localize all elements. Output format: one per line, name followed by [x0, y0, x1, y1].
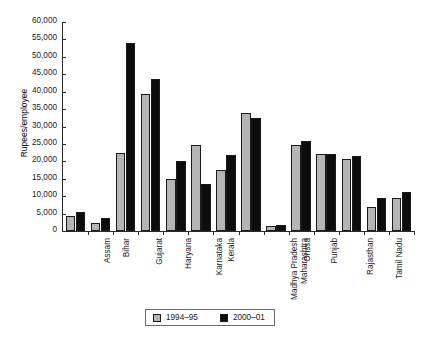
- x-axis-tick: [289, 231, 290, 235]
- y-tick-label: 25,000: [32, 138, 57, 147]
- x-axis-tick: [163, 231, 164, 235]
- x-axis-label: Karnataka: [216, 238, 225, 275]
- bar-group: [364, 22, 389, 231]
- bar: [226, 155, 236, 231]
- x-axis-tick: [113, 231, 114, 235]
- x-axis-tick: [239, 231, 240, 235]
- y-tick-label: 55,000: [32, 33, 57, 42]
- bar: [126, 43, 136, 231]
- x-axis-label: Madhya Pradesh: [290, 238, 299, 300]
- y-tick-label: 5,000: [37, 208, 58, 217]
- plot-area: 05,00010,00015,00020,00025,00030,00035,0…: [62, 22, 414, 232]
- y-tick-label: 40,000: [32, 86, 57, 95]
- bar: [141, 94, 151, 231]
- bar: [392, 198, 402, 231]
- y-tick-label: 35,000: [32, 103, 57, 112]
- bar: [367, 207, 377, 231]
- x-axis-label: Tamil Nadu: [395, 238, 404, 279]
- y-tick-label: 30,000: [32, 121, 57, 130]
- bar: [76, 212, 86, 231]
- bar: [101, 218, 111, 231]
- x-axis-tick: [264, 231, 265, 235]
- bar: [166, 179, 176, 231]
- y-tick-label: 20,000: [32, 155, 57, 164]
- gray-swatch-icon: [153, 314, 161, 322]
- x-axis-tick: [213, 231, 214, 235]
- bar-group: [88, 22, 113, 231]
- bar-group: [213, 22, 238, 231]
- bar-group: [389, 22, 414, 231]
- y-tick-label: 60,000: [32, 16, 57, 25]
- bar: [326, 154, 336, 231]
- bar: [176, 161, 186, 231]
- chart-legend: 1994–95 2000–01: [145, 309, 275, 326]
- x-axis-label: Haryana: [184, 238, 193, 269]
- y-axis-title: Rupees/employee: [19, 53, 29, 193]
- bar: [201, 184, 211, 231]
- y-tick-label: 45,000: [32, 68, 57, 77]
- bar: [116, 153, 126, 231]
- bar: [352, 156, 362, 231]
- bar: [291, 145, 301, 231]
- x-axis-label: Kerala: [227, 238, 236, 262]
- bar-group: [239, 22, 264, 231]
- x-axis-label: Rajasthan: [366, 238, 375, 275]
- legend-label: 2000–01: [233, 313, 265, 322]
- bar: [266, 226, 276, 231]
- bar: [91, 223, 101, 231]
- bar-group: [113, 22, 138, 231]
- x-axis-tick: [414, 231, 415, 235]
- bar: [301, 141, 311, 231]
- x-axis-tick: [88, 231, 89, 235]
- bar: [151, 79, 161, 231]
- bar-group: [264, 22, 289, 231]
- y-tick-mark: [63, 231, 66, 232]
- x-axis-tick: [314, 231, 315, 235]
- y-tick-label: 50,000: [32, 51, 57, 60]
- y-tick-label: 15,000: [32, 173, 57, 182]
- black-swatch-icon: [220, 314, 228, 322]
- x-axis-tick: [188, 231, 189, 235]
- x-axis-label: Punjab: [329, 238, 338, 264]
- bar: [342, 159, 352, 231]
- bar-group: [314, 22, 339, 231]
- bar-group: [289, 22, 314, 231]
- bar: [251, 118, 261, 231]
- x-axis-tick: [339, 231, 340, 235]
- bar-chart: Rupees/employee 05,00010,00015,00020,000…: [0, 0, 429, 348]
- legend-label: 1994–95: [166, 313, 198, 322]
- bar: [316, 154, 326, 231]
- legend-entry: 2000–01: [220, 313, 265, 322]
- x-axis-label: Orissa: [302, 238, 311, 262]
- legend-entry: 1994–95: [153, 313, 198, 322]
- bar-group: [188, 22, 213, 231]
- y-tick-label: 0: [52, 225, 57, 234]
- bar: [276, 225, 286, 231]
- x-axis-label: Bihar: [122, 238, 131, 257]
- bar-group: [339, 22, 364, 231]
- bar: [66, 216, 76, 231]
- y-tick-label: 10,000: [32, 190, 57, 199]
- x-axis-tick: [364, 231, 365, 235]
- bar: [377, 198, 387, 231]
- x-axis-label: Assam: [103, 238, 112, 263]
- bar: [216, 170, 226, 231]
- bar: [191, 145, 201, 231]
- bar: [241, 113, 251, 231]
- x-axis-tick: [138, 231, 139, 235]
- x-axis-label: Gujarat: [155, 238, 164, 265]
- x-axis-tick: [389, 231, 390, 235]
- bar-group: [163, 22, 188, 231]
- bar: [402, 192, 412, 231]
- bar-group: [63, 22, 88, 231]
- bar-group: [138, 22, 163, 231]
